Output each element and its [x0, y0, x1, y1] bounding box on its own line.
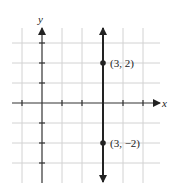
point-3-neg2 — [100, 140, 106, 146]
x-axis-label: x — [161, 97, 167, 109]
point-label-3-2: (3, 2) — [110, 57, 134, 70]
point-label-3-neg2: (3, −2) — [110, 137, 140, 150]
x-axis — [12, 100, 160, 106]
coordinate-plane: x y (3, 2) (3, −2) — [0, 0, 181, 194]
grid — [12, 28, 160, 183]
y-axis — [39, 28, 45, 183]
y-axis-label: y — [37, 13, 43, 25]
point-3-2 — [100, 60, 106, 66]
